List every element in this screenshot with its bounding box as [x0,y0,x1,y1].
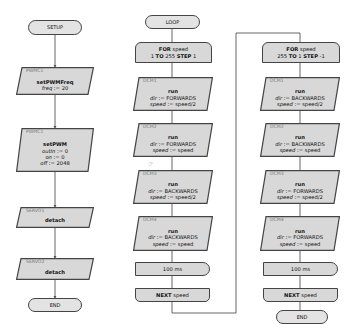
to-keyword: TO [289,53,297,59]
next-keyword: NEXT [156,292,171,298]
arg-name: on [45,154,51,160]
arg-value: 0 [65,148,68,154]
arg-name: dir [148,234,155,240]
method-label: detach [45,269,65,275]
loop-start-terminal[interactable]: LOOP [145,15,200,29]
arg-name: off [40,160,47,166]
loop-start-label: LOOP [166,19,180,25]
for2-delay-block[interactable]: 100 ms [263,262,338,276]
for1-block-dcm3-run[interactable]: DCM3 run dir := BACKWARDS speed := speed… [133,170,213,204]
loop-from: 255 [277,53,287,59]
setup-block-servo1-detach[interactable]: SERVO1 detach [16,207,94,228]
arg-name: dir [148,188,155,194]
arg-value: speed [178,147,194,153]
setup-end-terminal[interactable]: END [28,298,82,312]
setup-block-pwmc1-setpwm[interactable]: PWMC1 setPWM outIn := 0 on := 0 off := 2… [16,128,94,172]
arg-name: speed [153,147,169,153]
loop-step: -1 [320,53,325,59]
arg-name: dir [150,141,157,147]
loop-to: 255 [165,53,175,59]
arg-name: dir [275,95,282,101]
arg-value: 20 [62,85,69,91]
setup-block-pwmc1-setpwmfreq[interactable]: PWMC1 setPWMFreq freq := 20 [16,67,94,95]
arg-name: speed [277,101,293,107]
arg-value: speed/2 [175,101,196,107]
delay-label: 100 ms [163,266,182,272]
for-keyword: FOR [159,46,171,52]
arg-name: speed [153,241,169,247]
arg-name: dir [277,188,284,194]
arg-name: speed [150,194,166,200]
loop-end-label: END [297,314,308,320]
for2-block-dcm2-run[interactable]: DCM2 run dir := BACKWARDS speed := speed [260,123,340,157]
arg-value: speed [305,241,321,247]
arg-name: freq [42,85,52,91]
setup-block-servo2-detach[interactable]: SERVO2 detach [16,258,94,280]
step-keyword: STEP [303,53,318,59]
for1-block-dcm2-run[interactable]: DCM2 run dir := FORWARDS speed := speed [133,123,213,157]
setup-start-label: SETUP [47,24,63,30]
arg-value: FORWARDS [293,234,323,240]
setup-start-terminal[interactable]: SETUP [28,20,82,35]
step-keyword: STEP [177,53,192,59]
arg-value: speed [305,147,321,153]
method-label: detach [45,217,65,223]
delay-label: 100 ms [291,266,310,272]
for1-delay-block[interactable]: 100 ms [135,262,210,276]
arg-value: speed/2 [302,101,323,107]
to-keyword: TO [156,53,164,59]
loop-step: 1 [193,53,196,59]
for2-block-dcm3-run[interactable]: DCM3 run dir := FORWARDS speed := speed/… [260,170,340,204]
arg-name: speed [150,101,166,107]
arg-value: BACKWARDS [165,188,198,194]
loop-from: 1 [151,53,154,59]
arg-value: speed/2 [175,194,196,200]
arg-name: dir [277,234,284,240]
arg-value: 2048 [57,160,70,166]
setup-end-label: END [50,302,61,308]
arg-value: speed [178,241,194,247]
next-keyword: NEXT [284,292,299,298]
arg-name: dir [275,141,282,147]
for-loop-2-header[interactable]: FOR speed 255 TO 1 STEP -1 [262,42,340,63]
for1-block-dcm1-run[interactable]: DCM1 run dir := FORWARDS speed := speed/… [133,77,213,111]
for1-next-block[interactable]: NEXT speed [135,288,210,302]
mouse-cursor-icon: ☞ [148,160,153,167]
arg-name: speed [280,147,296,153]
for2-block-dcm1-run[interactable]: DCM1 run dir := BACKWARDS speed := speed… [260,77,340,111]
arg-name: dir [150,95,157,101]
for1-block-dcm4-run[interactable]: DCM4 run dir := BACKWARDS speed := speed [133,216,213,251]
arg-value: FORWARDS [166,95,196,101]
next-var: speed [173,292,189,298]
arg-value: BACKWARDS [165,234,198,240]
for2-next-block[interactable]: NEXT speed [263,288,338,302]
for-keyword: FOR [286,46,298,52]
arg-value: FORWARDS [166,141,196,147]
arg-value: BACKWARDS [292,95,325,101]
for2-block-dcm4-run[interactable]: DCM4 run dir := FORWARDS speed := speed [260,216,340,251]
loop-var: speed [172,46,188,52]
loop-end-terminal[interactable]: END [276,310,328,324]
arg-name: outIn [42,148,55,154]
arg-value: FORWARDS [293,188,323,194]
for-loop-1-header[interactable]: FOR speed 1 TO 255 STEP 1 [135,42,212,63]
arg-name: speed [280,241,296,247]
loop-to: 1 [298,53,301,59]
arg-value: speed/2 [302,194,323,200]
arg-value: 0 [61,154,64,160]
next-var: speed [301,292,317,298]
arg-name: speed [277,194,293,200]
arg-value: BACKWARDS [292,141,325,147]
loop-var: speed [300,46,316,52]
